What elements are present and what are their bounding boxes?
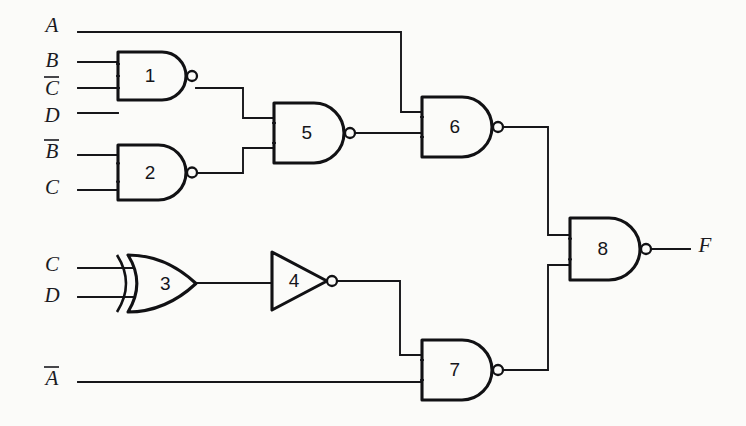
input-label-in-d2: D: [43, 283, 59, 307]
gate-5[interactable]: 5: [273, 103, 355, 163]
gate-2-inversion-bubble: [187, 168, 197, 178]
gate-6-number: 6: [450, 116, 461, 137]
input-in-c3: C: [45, 252, 60, 276]
input-label-in-c3: C: [45, 252, 60, 276]
gate-3[interactable]: 3: [117, 255, 196, 312]
wire-net-g6-to-g8: [502, 127, 570, 235]
wire-net-g4-to-g7: [337, 281, 422, 355]
gate-7[interactable]: 7: [421, 340, 503, 400]
input-label-in-d: D: [43, 103, 59, 127]
gate-4-inversion-bubble: [327, 276, 337, 286]
gate-3-number: 3: [160, 273, 171, 294]
gate-5-number: 5: [302, 122, 313, 143]
input-in-d: D: [43, 103, 59, 127]
gate-8-number: 8: [598, 238, 609, 259]
wire-net-g1-to-g5: [196, 88, 274, 118]
gate-2[interactable]: 2: [117, 145, 197, 200]
input-label-in-b: B: [46, 48, 59, 72]
gate-2-number: 2: [145, 162, 156, 183]
gate-layer: 12345678: [117, 52, 651, 400]
output-label-out-f: F: [698, 233, 712, 257]
gate-7-number: 7: [450, 359, 461, 380]
input-in-bbar: B: [44, 139, 59, 163]
gate-1[interactable]: 1: [117, 52, 197, 100]
input-in-d2: D: [43, 283, 59, 307]
gate-6[interactable]: 6: [421, 97, 503, 157]
input-label-in-cbar: C: [45, 76, 60, 100]
gate-5-inversion-bubble: [345, 128, 355, 138]
gate-6-inversion-bubble: [493, 122, 503, 132]
circuit-canvas: 12345678ABCDBCCDAF: [0, 0, 746, 426]
gate-3-input-arc: [117, 255, 126, 312]
logic-circuit-diagram: 12345678ABCDBCCDAF: [0, 0, 746, 426]
gate-1-inversion-bubble: [187, 71, 197, 81]
gate-7-inversion-bubble: [493, 365, 503, 375]
wire-net-g7-to-g8: [502, 265, 570, 370]
input-in-cbar: C: [44, 76, 60, 100]
gate-8-inversion-bubble: [641, 244, 651, 254]
input-in-abar: A: [44, 366, 59, 390]
output-out-f: F: [698, 233, 712, 257]
input-in-a: A: [44, 13, 59, 37]
gate-4-number: 4: [289, 270, 300, 291]
input-label-in-bbar: B: [46, 139, 59, 163]
wire-net-g2-to-g5: [196, 148, 274, 173]
input-in-b: B: [46, 48, 59, 72]
input-in-c2: C: [45, 175, 60, 199]
gate-8[interactable]: 8: [569, 218, 651, 280]
input-label-in-c2: C: [45, 175, 60, 199]
gate-4[interactable]: 4: [272, 252, 337, 310]
gate-4-body: [272, 252, 327, 310]
input-label-in-abar: A: [44, 366, 59, 390]
input-label-in-a: A: [44, 13, 59, 37]
gate-1-number: 1: [145, 65, 156, 86]
